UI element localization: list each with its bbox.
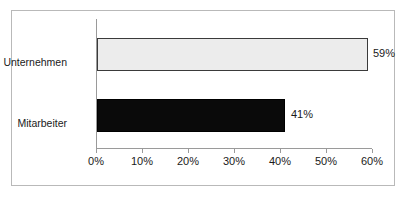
x-axis-tick bbox=[142, 149, 143, 153]
x-axis-tick-label: 60% bbox=[342, 155, 402, 167]
bar-value-unternehmen: 59% bbox=[373, 47, 395, 59]
x-axis-tick bbox=[188, 149, 189, 153]
x-axis-tick bbox=[96, 149, 97, 153]
chart-figure: 0% 10% 20% 30% 40% 50% 60% Unternehmen M… bbox=[11, 10, 395, 186]
bar-value-mitarbeiter: 41% bbox=[291, 108, 313, 120]
bar-mitarbeiter[interactable] bbox=[97, 99, 285, 132]
plot-area: 0% 10% 20% 30% 40% 50% 60% Unternehmen M… bbox=[12, 11, 394, 185]
x-axis-tick bbox=[326, 149, 327, 153]
category-label-mitarbeiter: Mitarbeiter bbox=[0, 117, 67, 129]
x-axis-tick bbox=[234, 149, 235, 153]
bar-unternehmen[interactable] bbox=[97, 38, 368, 71]
x-axis-tick bbox=[372, 149, 373, 153]
x-axis-tick bbox=[280, 149, 281, 153]
category-label-unternehmen: Unternehmen bbox=[0, 56, 67, 68]
